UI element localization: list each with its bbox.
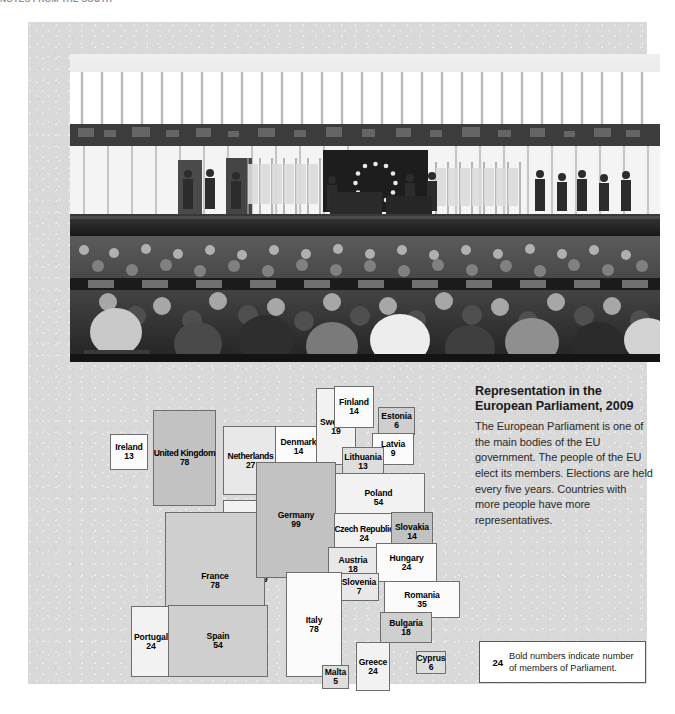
country-seat-count: 78 [180, 458, 189, 467]
cartogram-tile-slovenia: Slovenia7 [339, 573, 379, 601]
cartogram-tile-finland: Finland14 [334, 386, 374, 428]
cartogram-tile-united-kingdom: United Kingdom78 [153, 410, 216, 506]
cartogram-tile-ireland: Ireland13 [110, 434, 148, 470]
cartogram-tile-greece: Greece24 [356, 642, 390, 691]
country-seat-count: 13 [358, 462, 367, 471]
country-seat-count: 7 [357, 587, 362, 596]
running-header: NOTES FROM THE SOUTH [0, 0, 300, 4]
country-seat-count: 9 [391, 449, 396, 458]
country-seat-count: 14 [407, 532, 416, 541]
country-seat-count: 35 [417, 600, 426, 609]
cartogram-tile-germany: Germany99 [256, 462, 336, 578]
country-seat-count: 14 [294, 447, 303, 456]
legend-sample-number: 24 [486, 657, 503, 668]
cartogram-tile-bulgaria: Bulgaria18 [380, 612, 432, 643]
country-seat-count: 6 [429, 663, 434, 672]
info-block: Representation in the European Parliamen… [475, 384, 653, 528]
country-seat-count: 6 [394, 421, 399, 430]
country-seat-count: 78 [309, 625, 318, 634]
country-seat-count: 99 [291, 520, 300, 529]
legend-description: Bold numbers indicate number of members … [509, 650, 639, 674]
cartogram-tile-malta: Malta5 [322, 665, 349, 689]
country-seat-count: 14 [349, 407, 358, 416]
country-seat-count: 24 [368, 667, 377, 676]
country-seat-count: 54 [213, 641, 222, 650]
info-body: The European Parliament is one of the ma… [475, 419, 653, 528]
cartogram-tile-estonia: Estonia6 [378, 407, 415, 435]
cartogram-tile-cyprus: Cyprus6 [416, 651, 446, 674]
country-seat-count: 24 [146, 642, 155, 651]
info-title: Representation in the European Parliamen… [475, 384, 653, 414]
country-seat-count: 13 [124, 452, 133, 461]
cartogram-tile-portugal: Portugal24 [131, 606, 171, 677]
cartogram-tile-hungary: Hungary24 [376, 543, 437, 582]
legend-key: 24 Bold numbers indicate number of membe… [479, 641, 646, 683]
cartogram-tile-spain: Spain54 [168, 605, 268, 677]
country-seat-count: 27 [246, 461, 255, 470]
country-seat-count: 24 [360, 534, 369, 543]
country-seat-count: 78 [210, 581, 219, 590]
country-seat-count: 18 [401, 628, 410, 637]
cartogram-tile-italy: Italy78 [286, 572, 342, 677]
country-seat-count: 5 [333, 677, 338, 686]
country-seat-count: 54 [374, 498, 383, 507]
country-seat-count: 24 [402, 563, 411, 572]
page-panel: Ireland13United Kingdom78Netherlands27Be… [28, 22, 647, 684]
eu-cartogram: Ireland13United Kingdom78Netherlands27Be… [28, 22, 647, 684]
